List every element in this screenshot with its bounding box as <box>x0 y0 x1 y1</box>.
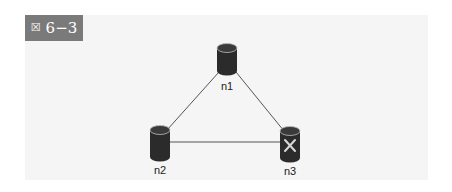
database-cylinder-failed-icon <box>280 127 300 163</box>
database-cylinder-icon <box>150 126 170 162</box>
node-n2: n2 <box>150 126 170 177</box>
topology-diagram: n1 n2 n3 <box>0 0 452 192</box>
node-n3: n3 <box>280 127 300 178</box>
database-cylinder-icon <box>217 44 237 76</box>
edge-n1-n3 <box>236 72 284 131</box>
node-label-n2: n2 <box>154 164 166 176</box>
node-label-n3: n3 <box>284 165 296 177</box>
node-n1: n1 <box>217 44 237 93</box>
edge-n1-n2 <box>167 72 219 130</box>
node-label-n1: n1 <box>221 80 233 92</box>
